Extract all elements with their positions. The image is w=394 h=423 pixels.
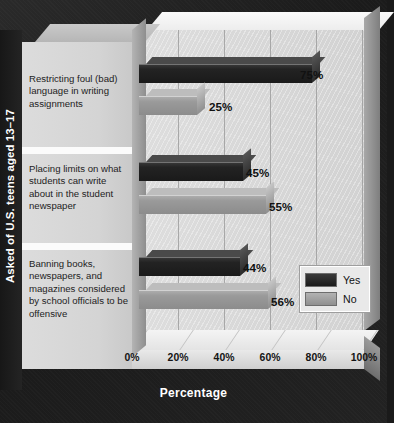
bar-value-no-1: 25% (209, 100, 232, 113)
y-axis-title: Asked of U.S. teens aged 13–17 (4, 36, 16, 356)
bar-front-face (139, 162, 243, 181)
legend-swatch-no-icon (305, 292, 337, 306)
bar-front-face (139, 257, 240, 276)
bar-no-banning-books[interactable] (139, 290, 268, 309)
y-axis-title-strip: Asked of U.S. teens aged 13–17 (0, 30, 22, 390)
bar-top-face (146, 283, 281, 290)
bar-value-no-3: 56% (271, 295, 294, 308)
category-label-2: Placing limits on what students can writ… (29, 163, 129, 213)
bar-yes-banning-books[interactable] (139, 257, 240, 276)
legend-swatch-yes-icon (305, 273, 337, 287)
bar-yes-placing-limits[interactable] (139, 162, 243, 181)
bar-value-no-2: 55% (269, 200, 292, 213)
bar-top-face (146, 250, 253, 257)
plot-area-top-bevel (147, 12, 394, 30)
label-separator-1 (22, 147, 132, 154)
legend-label-no: No (343, 293, 357, 305)
legend-item-no[interactable]: No (305, 290, 365, 307)
category-label-3: Banning books, newspapers, and magazines… (29, 258, 129, 320)
x-tick-60: 60% (260, 352, 281, 363)
bar-top-face (146, 57, 325, 64)
floor-top (132, 330, 379, 352)
bar-front-face (139, 96, 197, 115)
category-label-1: Restricting foul (bad) language in writi… (29, 73, 129, 110)
legend-label-yes: Yes (343, 274, 360, 286)
bar-no-placing-limits[interactable] (139, 195, 266, 214)
x-tick-40: 40% (214, 352, 235, 363)
bar-value-yes-3: 44% (243, 261, 266, 274)
legend-item-yes[interactable]: Yes (305, 271, 365, 288)
x-axis-title: Percentage (0, 386, 387, 400)
bar-top-face (146, 155, 256, 162)
x-tick-80: 80% (306, 352, 327, 363)
bar-front-face (139, 64, 312, 83)
legend[interactable]: Yes No (300, 266, 370, 312)
x-tick-0: 0% (124, 352, 139, 363)
bar-yes-restricting-foul-language[interactable] (139, 64, 312, 83)
bar-front-face (139, 290, 268, 309)
bar-top-face (146, 188, 279, 195)
label-separator-2 (22, 243, 132, 250)
bar-front-face (139, 195, 266, 214)
bar-value-yes-1: 75% (300, 68, 323, 81)
bar-value-yes-2: 45% (246, 166, 269, 179)
x-tick-20: 20% (168, 352, 189, 363)
bar-no-restricting-foul-language[interactable] (139, 96, 197, 115)
floor-front-face (117, 350, 364, 369)
x-tick-100: 100% (351, 352, 378, 363)
